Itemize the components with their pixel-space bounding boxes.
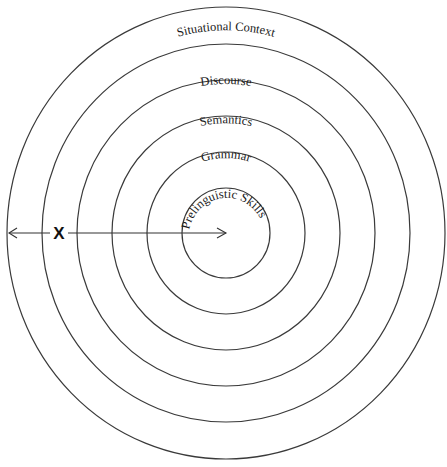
concentric-diagram: Cultural and Subcultural Context Situati… <box>0 0 447 467</box>
label-prelinguistic: Prelinguistic Skills <box>178 187 269 231</box>
label-grammar: Grammar <box>200 147 254 165</box>
x-label: X <box>53 224 65 243</box>
ring-labels: Cultural and Subcultural Context Situati… <box>141 0 311 231</box>
label-situational: Situational Context <box>175 19 277 40</box>
label-discourse: Discourse <box>200 73 254 89</box>
label-semantics: Semantics <box>198 112 254 129</box>
